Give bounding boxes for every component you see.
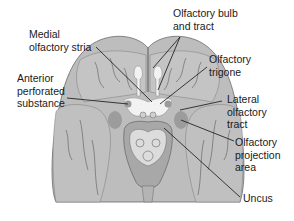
- label-olfactory-trigone: Olfactory trigone: [209, 53, 251, 78]
- label-lateral-olfactory-tract: Lateral olfactory tract: [227, 93, 267, 131]
- label-anterior-perforated-substance: Anterior perforated substance: [17, 72, 65, 110]
- label-medial-olfactory-stria: Medial olfactory stria: [29, 28, 91, 53]
- label-olfactory-bulb-and-tract: Olfactory bulb and tract: [173, 7, 238, 32]
- label-uncus: Uncus: [243, 192, 273, 205]
- brain-olfactory-diagram: Medial olfactory stria Olfactory bulb an…: [0, 0, 294, 221]
- label-olfactory-projection-area: Olfactory projection area: [235, 136, 281, 174]
